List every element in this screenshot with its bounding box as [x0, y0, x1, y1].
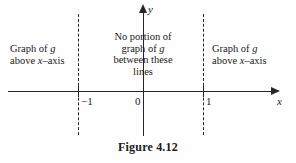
dashed-line-at-one	[203, 14, 204, 135]
x-axis-arrowhead-icon	[271, 87, 280, 95]
annotation-left-line-1-variable: g	[50, 43, 55, 54]
tick-label-negative-one: −1	[81, 96, 93, 107]
tick-mark-negative-one	[78, 86, 79, 97]
annotation-center-line-2-variable: g	[159, 43, 164, 54]
annotation-right-line-2-text: above	[212, 55, 240, 66]
annotation-left-line-2-suffix: –axis	[42, 55, 64, 66]
annotation-left: Graph of g above x–axis	[10, 43, 65, 66]
x-axis-line	[8, 91, 273, 92]
annotation-left-line-1-text: Graph of	[10, 43, 50, 54]
figure-caption: Figure 4.12	[0, 140, 296, 155]
x-axis-label: x	[277, 96, 282, 107]
annotation-right-line-1-text: Graph of	[212, 43, 252, 54]
dashed-line-at-negative-one	[78, 14, 79, 135]
annotation-right-line-2: above x–axis	[212, 55, 267, 67]
annotation-left-line-2-text: above	[10, 55, 38, 66]
figure-container: x y −1 0 1 Graph of g above x–axis No po…	[0, 0, 296, 163]
annotation-center: No portion of graph of g between these l…	[95, 31, 191, 77]
annotation-right-line-1: Graph of g	[212, 43, 267, 55]
annotation-right-line-2-suffix: –axis	[244, 55, 266, 66]
annotation-center-line-2-text: graph of	[121, 43, 159, 54]
annotation-center-line-2: graph of g	[95, 43, 191, 55]
y-axis-arrowhead-icon	[139, 4, 147, 13]
annotation-center-line-4: lines	[95, 66, 191, 78]
y-axis-label: y	[148, 4, 153, 15]
tick-mark-one	[203, 86, 204, 97]
tick-label-one: 1	[206, 96, 212, 107]
annotation-left-line-1: Graph of g	[10, 43, 65, 55]
annotation-right-line-1-variable: g	[252, 43, 257, 54]
annotation-center-line-1: No portion of	[95, 31, 191, 43]
annotation-left-line-2: above x–axis	[10, 55, 65, 67]
annotation-right: Graph of g above x–axis	[212, 43, 267, 66]
annotation-center-line-3: between these	[95, 54, 191, 66]
tick-label-zero: 0	[135, 96, 141, 107]
